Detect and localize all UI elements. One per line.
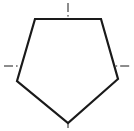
- pentagon-drawing-svg: [0, 0, 134, 131]
- technical-drawing-canvas: [0, 0, 134, 131]
